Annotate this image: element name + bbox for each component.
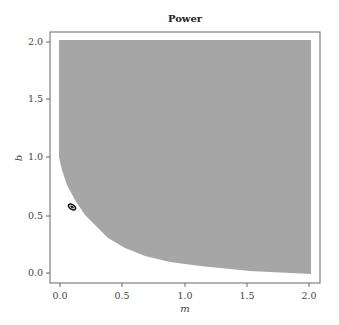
x-tick-label: 0.5 (114, 290, 129, 301)
x-tick-label: 2.0 (301, 290, 316, 301)
x-tick-label: 0.0 (52, 290, 67, 301)
power-chart: Power 0.0 0.5 1.0 1.5 2.0 m 2.0 1.5 1.0 … (0, 0, 339, 325)
x-axis (60, 283, 309, 287)
y-tick-label: 2.0 (28, 36, 43, 47)
y-tick-label: 0.5 (28, 210, 43, 221)
y-axis (46, 42, 50, 273)
x-tick-label: 1.5 (239, 290, 254, 301)
y-tick-label: 1.0 (28, 151, 43, 162)
y-tick-label: 0.0 (28, 267, 43, 278)
ellipse-marker (67, 203, 76, 211)
y-tick-label: 1.5 (28, 93, 43, 104)
chart-title: Power (168, 13, 203, 24)
y-axis-label: b (13, 155, 24, 161)
x-axis-label: m (180, 303, 189, 314)
feasible-region (59, 40, 311, 274)
x-tick-label: 1.0 (177, 290, 192, 301)
